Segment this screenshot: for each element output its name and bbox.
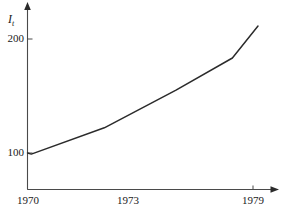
x-tick-label-1973: 1973 bbox=[108, 195, 148, 206]
series-line-it bbox=[28, 26, 259, 154]
y-axis-arrow-icon bbox=[24, 2, 31, 10]
chart-plot-area bbox=[0, 0, 288, 212]
x-tick-label-1970: 1970 bbox=[8, 195, 48, 206]
x-tick-label-1979: 1979 bbox=[233, 195, 273, 206]
line-chart: It 200 100 1970 1973 1979 bbox=[0, 0, 288, 212]
y-tick-label-100: 100 bbox=[0, 147, 24, 158]
y-axis-title: It bbox=[8, 13, 14, 28]
y-tick-label-200: 200 bbox=[0, 33, 24, 44]
x-axis-arrow-icon bbox=[271, 186, 280, 192]
y-axis-title-subscript: t bbox=[12, 19, 14, 28]
